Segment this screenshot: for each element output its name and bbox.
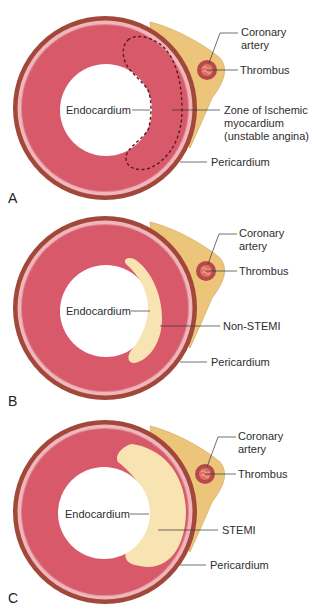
label-coronary: Coronary (238, 430, 283, 443)
label-thrombus: Thrombus (240, 64, 290, 77)
label-stemi: STEMI (222, 524, 256, 537)
label-artery: artery (239, 240, 267, 253)
panel-letter-c: C (8, 590, 18, 606)
label-zone-line3: (unstable angina) (224, 130, 309, 143)
panel-letter-a: A (8, 190, 17, 206)
label-artery: artery (241, 39, 269, 52)
label-artery: artery (238, 443, 266, 456)
label-endocardium: Endocardium (65, 508, 130, 521)
label-zone-line1: Zone of Ischemic (224, 104, 308, 117)
heart-cross-section-diagram (0, 0, 312, 610)
label-coronary: Coronary (239, 227, 284, 240)
label-thrombus: Thrombus (238, 468, 288, 481)
label-zone-line2: myocardium (224, 117, 284, 130)
label-thrombus: Thrombus (239, 265, 289, 278)
label-pericardium: Pericardium (211, 356, 270, 369)
label-pericardium: Pericardium (210, 559, 269, 572)
label-coronary: Coronary (241, 26, 286, 39)
label-non-stemi: Non-STEMI (223, 320, 280, 333)
label-endocardium: Endocardium (66, 104, 131, 117)
panel-letter-b: B (8, 393, 17, 409)
label-endocardium: Endocardium (66, 305, 131, 318)
label-pericardium: Pericardium (211, 156, 270, 169)
